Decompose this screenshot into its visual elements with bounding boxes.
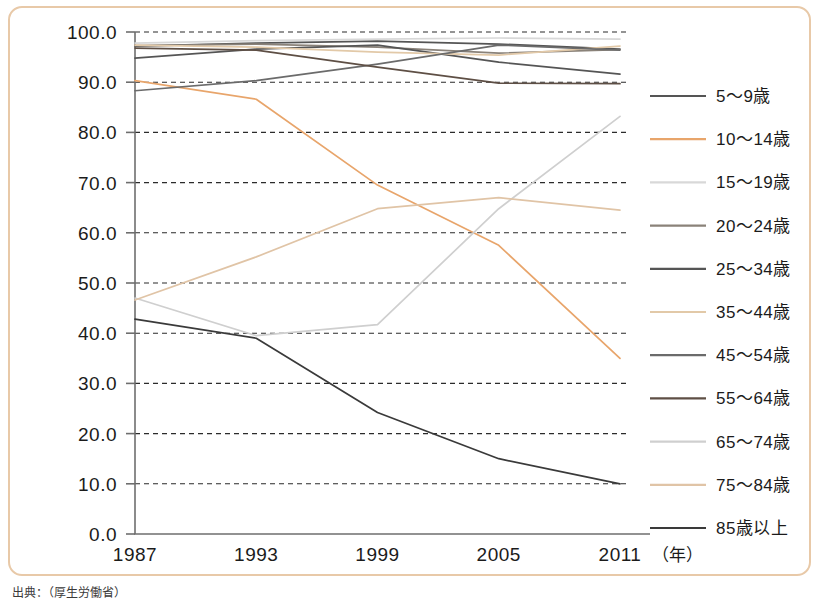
legend-item-label: 25～34歳 bbox=[716, 260, 791, 279]
y-axis-tick-label: 80.0 bbox=[78, 122, 117, 143]
legend-item-label: 45～54歳 bbox=[716, 346, 791, 365]
legend-item-label: 75～84歳 bbox=[716, 476, 791, 495]
y-axis-tick-label: 20.0 bbox=[78, 424, 117, 445]
legend-item-label: 15～19歳 bbox=[716, 173, 791, 192]
legend-item-label: 35～44歳 bbox=[716, 303, 791, 322]
y-axis-tick-label: 30.0 bbox=[78, 373, 117, 394]
y-axis-tick-label: 70.0 bbox=[78, 173, 117, 194]
x-axis-tick-label: 1993 bbox=[234, 544, 278, 565]
y-axis-tick-label: 10.0 bbox=[78, 474, 117, 495]
y-axis-tick-label: 90.0 bbox=[78, 72, 117, 93]
y-axis-tick-label: 100.0 bbox=[67, 22, 117, 43]
x-axis-tick-label: 1987 bbox=[113, 544, 157, 565]
y-axis-tick-label: 0.0 bbox=[89, 524, 117, 545]
x-axis-unit-label: （年） bbox=[652, 546, 703, 565]
x-axis-tick-label: 1999 bbox=[355, 544, 399, 565]
source-note: 出典：（厚生労働省） bbox=[12, 583, 126, 600]
legend-item-label: 5～9歳 bbox=[716, 87, 771, 106]
legend-item-label: 20～24歳 bbox=[716, 217, 791, 236]
data-series bbox=[135, 38, 620, 484]
gridlines bbox=[135, 32, 630, 484]
y-axis-tick-label: 60.0 bbox=[78, 223, 117, 244]
y-axis-tick-label: 50.0 bbox=[78, 273, 117, 294]
legend-item-label: 10～14歳 bbox=[716, 130, 791, 149]
series-line bbox=[135, 198, 620, 300]
y-axis-tick-labels: 0.010.020.030.040.050.060.070.080.090.01… bbox=[67, 22, 117, 545]
legend-item-label: 85歳以上 bbox=[716, 519, 788, 538]
series-line bbox=[135, 116, 620, 335]
legend-item-label: 65～74歳 bbox=[716, 433, 791, 452]
legend: 5～9歳10～14歳15～19歳20～24歳25～34歳35～44歳45～54歳… bbox=[650, 87, 791, 538]
x-axis-tick-labels: 19871993199920052011 bbox=[113, 544, 642, 565]
x-axis-tick-label: 2011 bbox=[599, 544, 642, 565]
series-line bbox=[135, 81, 620, 359]
legend-item-label: 55～64歳 bbox=[716, 389, 791, 408]
x-axis-tick-label: 2005 bbox=[477, 544, 521, 565]
series-line bbox=[135, 319, 620, 484]
y-axis-tick-label: 40.0 bbox=[78, 323, 117, 344]
